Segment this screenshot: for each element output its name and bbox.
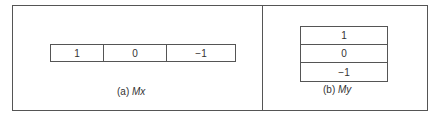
mx-kernel-row: 1 0 −1 (50, 44, 236, 62)
my-cell-1: 1 (301, 27, 387, 45)
caption-my: (b) My (323, 84, 351, 95)
my-cell-2: 0 (301, 45, 387, 63)
mx-cell-3: −1 (167, 45, 235, 61)
my-cell-3: −1 (301, 63, 387, 81)
mx-cell-2: 0 (104, 45, 167, 61)
caption-mx-label: (a) (117, 86, 132, 97)
caption-my-var: My (338, 84, 351, 95)
caption-my-label: (b) (323, 84, 338, 95)
caption-mx: (a) Mx (117, 86, 145, 97)
my-kernel-column: 1 0 −1 (300, 26, 388, 82)
mx-cell-1: 1 (51, 45, 104, 61)
caption-mx-var: Mx (132, 86, 145, 97)
panel-divider (262, 5, 263, 111)
